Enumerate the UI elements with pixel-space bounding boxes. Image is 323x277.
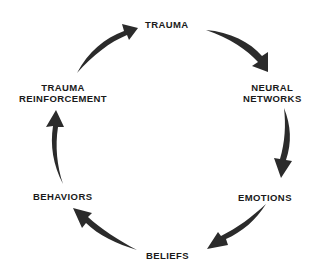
arrow-neural-networks-to-emotions [274, 108, 292, 178]
node-neural-networks-line-1: NEURAL [243, 82, 302, 93]
node-behaviors-label: BEHAVIORS [33, 191, 92, 202]
node-emotions: EMOTIONS [238, 192, 292, 203]
node-emotions-label: EMOTIONS [238, 192, 292, 203]
arrow-beliefs-to-behaviors [73, 208, 137, 250]
node-trauma-reinforcement: TRAUMA REINFORCEMENT [19, 82, 107, 104]
node-trauma-reinforcement-line-2: REINFORCEMENT [19, 93, 107, 104]
node-beliefs-label: BELIEFS [146, 250, 189, 261]
arrow-reinforcement-to-trauma [77, 24, 138, 73]
trauma-cycle-diagram: TRAUMA NEURAL NETWORKS EMOTIONS BELIEFS … [0, 0, 323, 277]
arrow-emotions-to-beliefs [207, 204, 266, 249]
node-behaviors: BEHAVIORS [33, 191, 92, 202]
arrow-behaviors-to-reinforcement [46, 110, 64, 184]
arrow-trauma-to-neural-networks [206, 30, 268, 72]
node-trauma: TRAUMA [145, 19, 189, 30]
node-beliefs: BELIEFS [146, 250, 189, 261]
cycle-arrows [0, 0, 323, 277]
node-neural-networks-line-2: NETWORKS [243, 93, 302, 104]
node-trauma-reinforcement-line-1: TRAUMA [19, 82, 107, 93]
node-trauma-label: TRAUMA [145, 19, 189, 30]
node-neural-networks: NEURAL NETWORKS [243, 82, 302, 104]
